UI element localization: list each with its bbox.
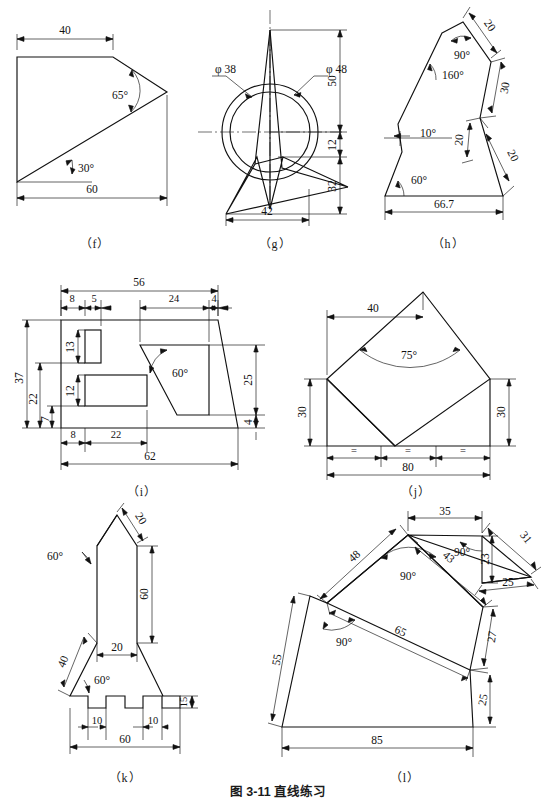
dim-inner-i (76, 330, 85, 406)
equal-mark-1-j: = (351, 445, 357, 456)
equal-mark-3-j: = (460, 445, 466, 456)
angle-60-arc-h (396, 181, 404, 196)
dim-label-22-i: 22 (27, 393, 39, 405)
dim-label-60-vert-k: 60 (138, 588, 150, 600)
dim-label-30-h: 30 (498, 81, 512, 95)
angle-label-60-low-k: 60° (94, 674, 111, 686)
slot-upper-i (85, 330, 101, 363)
dim-label-60-bottom-k: 60 (119, 733, 131, 745)
dim-label-7-i: 7 (39, 416, 51, 422)
figure-f: 40 60 65° 30° （f） (0, 0, 190, 230)
dim-43-l (408, 535, 492, 607)
angle-label-30-f: 30° (78, 162, 95, 174)
dim-56-i (61, 285, 218, 316)
angle-label-60-i: 60° (172, 367, 189, 379)
dim-label-37-i: 37 (13, 372, 25, 384)
dim-label-8-bot-i: 8 (70, 429, 75, 440)
figure-caption-f: （f） (45, 234, 145, 252)
angle-60-arc-i (149, 349, 167, 373)
dim-label-85-l: 85 (371, 734, 383, 746)
dim-label-80-j: 80 (402, 461, 414, 473)
angle-90-left-l (323, 618, 355, 631)
dim-label-27-l: 27 (485, 630, 499, 643)
dim-label-4-top-i: 4 (211, 293, 217, 304)
dim-label-50-g: 50 (326, 75, 338, 87)
dim-label-25-tri-l: 25 (502, 576, 514, 588)
dim-label-62-i: 62 (144, 450, 156, 462)
figure-caption-g: （g） (225, 234, 325, 252)
dim-label-20-width-k: 20 (111, 641, 123, 653)
figure-g: φ 38 φ 48 50 12 32 42 （g） (190, 0, 380, 230)
dim-label-31-l: 31 (518, 529, 535, 546)
dim-label-32-g: 32 (326, 180, 338, 192)
dim-label-25-i: 25 (242, 374, 254, 386)
angle-65-arc-f (129, 70, 140, 112)
angle-label-65-f: 65° (112, 89, 129, 101)
dim-row2-i (61, 300, 232, 342)
dim-label-60-f: 60 (86, 183, 98, 195)
dim-label-25-low-l: 25 (476, 693, 490, 707)
angle-label-10-h: 10° (420, 127, 437, 139)
dim-label-22-bot-i: 22 (111, 429, 122, 440)
label-phi48-g: φ 48 (326, 63, 347, 76)
angle-label-90-left-l: 90° (336, 636, 353, 648)
angle-60-low-k (84, 680, 90, 693)
label-phi38-g: φ 38 (215, 63, 236, 76)
dim-label-30-left-j: 30 (296, 406, 308, 418)
figure-k-outline (70, 515, 180, 708)
angle-90-arc-h (451, 36, 471, 43)
figure-caption-i: （i） (92, 482, 192, 500)
dim-label-10-left-k: 10 (92, 715, 103, 726)
angle-10-arc-h (384, 131, 452, 146)
angle-label-75-j: 75° (401, 349, 418, 361)
dim-label-42-g: 42 (261, 205, 273, 217)
angle-60-top-k (82, 552, 91, 564)
pocket-i (140, 345, 209, 415)
equal-mark-2-j: = (405, 445, 411, 456)
figure-j-diagonal (327, 379, 395, 446)
dim-label-12-i: 12 (64, 385, 76, 397)
angle-label-60-h: 60° (411, 174, 428, 186)
angle-label-90-right-l: 90° (454, 546, 471, 558)
dim-label-56-i: 56 (133, 276, 145, 288)
dim-label-35-l: 35 (439, 505, 451, 517)
leader-phi38-g (212, 76, 252, 98)
dim-label-5-i: 5 (91, 293, 96, 304)
dim-20-mid-h (462, 118, 480, 163)
dim-label-66.7-h: 66.7 (434, 198, 454, 210)
dim-label-13-i: 13 (64, 341, 76, 353)
figure-i: 56 8 5 24 4 37 22 7 13 (0, 262, 290, 492)
dim-label-4-right-i: 4 (242, 419, 254, 425)
dim-31-l (482, 523, 541, 574)
dim-label-20-mid-h: 20 (452, 133, 465, 146)
dim-label-15-k: 15 (178, 697, 189, 708)
angle-160-arc-h (428, 64, 436, 80)
dim-label-40-k: 40 (55, 654, 71, 669)
dim-label-23-l: 23 (479, 553, 491, 565)
slot-lower-i (85, 375, 147, 406)
figure-k: 20 60 20 40 60° 60° 15 (0, 500, 260, 795)
figure-caption-h: （h） (398, 234, 498, 252)
dim-40-f (17, 34, 113, 50)
dim-label-20-low-h: 20 (505, 148, 521, 164)
dim-label-20-top-k: 20 (133, 510, 149, 526)
dim-label-40-j: 40 (367, 302, 379, 314)
dim-label-20-top-h: 20 (482, 17, 499, 34)
dim-left-i (22, 320, 85, 428)
dim-label-40-f: 40 (59, 24, 71, 36)
figure-k-left-shoulder (97, 515, 117, 546)
figure-j: 40 75° 30 30 = = = 80 （j） (290, 262, 556, 492)
figure-l-outline (282, 535, 483, 727)
figure-h-outline (385, 22, 503, 196)
dim-label-24-i: 24 (169, 293, 180, 304)
dim-label-55-l: 55 (270, 653, 284, 667)
dim-label-30-right-j: 30 (495, 406, 507, 418)
figure-j-kite (327, 292, 490, 446)
angle-label-90-apex-l: 90° (400, 570, 417, 582)
dim-label-12-g: 12 (326, 139, 338, 151)
dim-label-10-right-k: 10 (148, 715, 159, 726)
page-caption: 图 3-11 直线练习 (0, 781, 556, 800)
dim-48-l (317, 525, 408, 603)
figure-h: 20 30 20 20 66.7 90° 160° (370, 0, 556, 230)
figure-i-outline (61, 320, 238, 428)
